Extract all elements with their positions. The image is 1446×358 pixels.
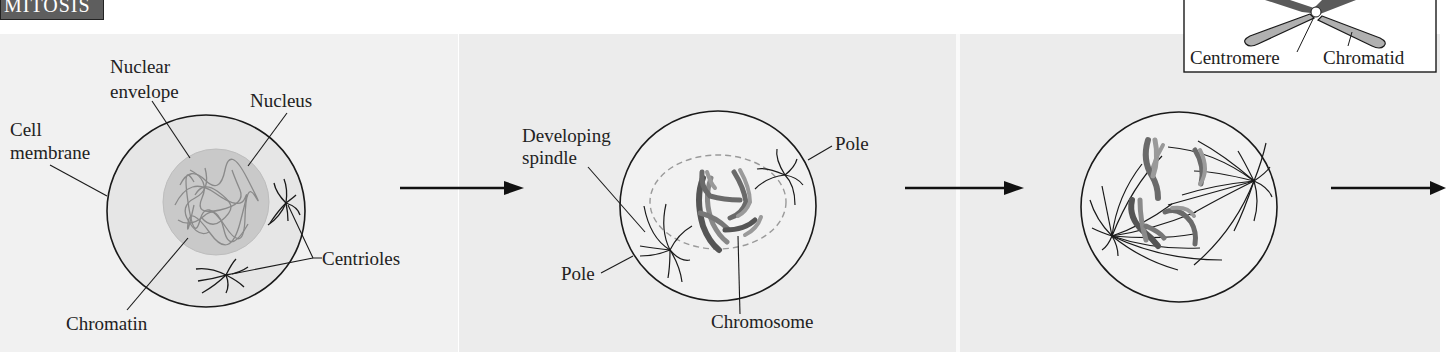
label-centromere: Centromere	[1190, 47, 1280, 68]
label-chromosome: Chromosome	[711, 311, 813, 332]
nucleus	[163, 149, 269, 255]
label-cell-membrane-2: membrane	[10, 142, 90, 163]
label-chromatin: Chromatin	[66, 313, 148, 334]
label-pole-bottom: Pole	[561, 263, 595, 284]
centromere	[1311, 7, 1321, 17]
label-chromatid: Chromatid	[1323, 47, 1405, 68]
label-nucleus: Nucleus	[250, 90, 312, 111]
label-developing-spindle: Developing	[522, 125, 611, 146]
section-tag: MITOSIS	[0, 0, 104, 20]
label-pole-top: Pole	[835, 133, 869, 154]
section-tag-text: MITOSIS	[4, 0, 103, 12]
label-developing-spindle-2: spindle	[522, 147, 577, 168]
prometaphase-cell	[1081, 112, 1277, 302]
label-nuclear-envelope: Nuclear	[110, 56, 171, 77]
mitosis-diagram: Nuclear envelope Nucleus Cell membrane C…	[0, 0, 1446, 358]
label-cell-membrane: Cell	[10, 119, 42, 140]
label-centrioles: Centrioles	[322, 248, 400, 269]
label-nuclear-envelope-2: envelope	[110, 81, 179, 102]
panel-divider	[956, 34, 960, 352]
